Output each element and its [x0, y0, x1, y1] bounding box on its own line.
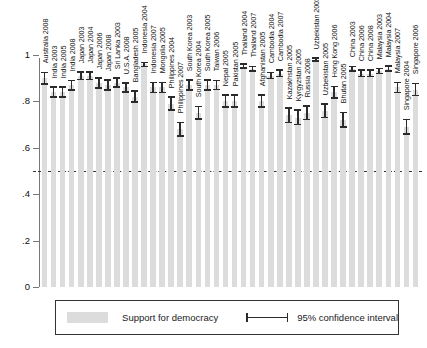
- error-bar-cap-upper: [267, 72, 274, 74]
- error-bar-cap-lower: [159, 92, 166, 94]
- error-bar-cap-upper: [331, 86, 338, 88]
- bar: [123, 87, 129, 287]
- error-bar-cap-lower: [412, 95, 419, 97]
- error-bar-cap-lower: [376, 73, 383, 75]
- error-bar-cap-upper: [349, 66, 356, 68]
- bar-group: Japan 2004: [85, 55, 94, 287]
- category-label: Malaysia 2004: [385, 12, 392, 57]
- bar-group: Indonesia 2004: [140, 55, 149, 287]
- legend-label-confidence-interval: 95% confidence interval: [297, 312, 398, 323]
- error-bar-cap-lower: [312, 60, 319, 62]
- error-bar-cap-lower: [385, 70, 392, 72]
- bar: [331, 92, 337, 287]
- category-label: South Korea 2003: [186, 15, 193, 71]
- error-bar-cap-upper: [385, 65, 392, 67]
- category-label: Russia 2008: [304, 58, 311, 97]
- y-axis-tick-label: .2: [2, 236, 30, 246]
- error-bar-cap-lower: [177, 135, 184, 137]
- legend-errorbar-icon: [246, 313, 288, 322]
- category-label: Japan 2003: [78, 26, 85, 63]
- bar: [132, 97, 138, 287]
- legend-swatch-support: [67, 312, 108, 323]
- category-label: Thailand 2007: [249, 13, 256, 57]
- error-bar: [415, 83, 417, 95]
- bar-group: Uzbekistan 2005: [320, 55, 329, 287]
- bar-group: Japan 2006: [94, 55, 103, 287]
- error-bar-cap-lower: [340, 126, 347, 128]
- error-bar-cap-lower: [222, 106, 229, 108]
- bar-group: Singapore 2006: [411, 55, 420, 287]
- bar-group: Australia 2008: [40, 55, 49, 287]
- plot-area: Australia 2008India 2003India 2005India …: [40, 55, 420, 287]
- category-label: India 2005: [59, 45, 66, 78]
- bar-group: Thailand 2007: [248, 55, 257, 287]
- category-label: Nepal 2005: [222, 50, 229, 86]
- bar: [349, 69, 355, 287]
- error-bar-cap-upper: [131, 90, 138, 92]
- y-axis-tick-mark: [33, 194, 39, 195]
- bar-group: Nepal 2005: [221, 55, 230, 287]
- bar: [150, 87, 156, 287]
- bar: [141, 64, 147, 287]
- error-bar-cap-upper: [86, 71, 93, 73]
- error-bar-cap-upper: [249, 66, 256, 68]
- bar: [268, 76, 274, 287]
- error-bar-cap-upper: [122, 82, 129, 84]
- bar: [376, 71, 382, 287]
- error-bar-cap-lower: [68, 89, 75, 91]
- error-bar: [234, 95, 236, 107]
- error-bar-cap-upper: [376, 68, 383, 70]
- bar-group: Cambodia 2007: [275, 55, 284, 287]
- bar: [340, 120, 346, 287]
- y-axis-tick-label: 1: [2, 50, 30, 60]
- category-label: Kyrgyzstan 2005: [295, 49, 302, 101]
- category-label: Japan 2006: [96, 33, 103, 70]
- error-bar-cap-upper: [240, 63, 247, 65]
- bar: [87, 76, 93, 287]
- error-bar-cap-lower: [50, 96, 57, 98]
- error-bar-cap-lower: [331, 97, 338, 99]
- category-label: Singapore 2006: [412, 25, 419, 74]
- bar-group: Singapore 2004: [402, 55, 411, 287]
- error-bar-cap-upper: [159, 82, 166, 84]
- error-bar: [342, 113, 344, 127]
- error-bar: [306, 106, 308, 119]
- category-label: Afghanistan 2005: [258, 32, 265, 86]
- error-bar: [288, 108, 290, 122]
- category-label: Bangladesh 2005: [132, 28, 139, 82]
- chart-legend: Support for democracy 95% confidence int…: [55, 300, 399, 335]
- bar-group: Bangladesh 2005: [130, 55, 139, 287]
- y-axis-tick-label: .6: [2, 143, 30, 153]
- error-bar-cap-upper: [394, 82, 401, 84]
- error-bar-cap-lower: [276, 76, 283, 78]
- bar: [78, 76, 84, 287]
- category-label: Cambodia 2004: [268, 14, 275, 63]
- bar-group: Cambodia 2004: [266, 55, 275, 287]
- bar-group: China 2003: [348, 55, 357, 287]
- error-bar-cap-lower: [321, 117, 328, 119]
- bar: [105, 85, 111, 287]
- error-bar-cap-upper: [231, 94, 238, 96]
- bar-group: South Korea 2005: [203, 55, 212, 287]
- category-label: India 2008: [68, 39, 75, 72]
- error-bar-cap-upper: [258, 94, 265, 96]
- error-bar-cap-upper: [321, 103, 328, 105]
- y-axis-tick-mark: [33, 101, 39, 102]
- bar-group: Pakistan 2005: [230, 55, 239, 287]
- category-label: Hong Kong 2006: [331, 25, 338, 78]
- category-label: Singapore 2004: [403, 61, 410, 110]
- bar: [51, 92, 57, 287]
- error-bar-cap-upper: [50, 86, 57, 88]
- bar: [177, 129, 183, 287]
- bar-group: India 2005: [58, 55, 67, 287]
- error-bar-cap-lower: [95, 87, 102, 89]
- legend-label-support: Support for democracy: [122, 312, 218, 323]
- error-bar-cap-upper: [59, 86, 66, 88]
- category-label: Indonesia 2004: [141, 6, 148, 54]
- bar-group: South Korea 2003: [185, 55, 194, 287]
- error-bar-cap-lower: [195, 118, 202, 120]
- bar: [286, 115, 292, 287]
- category-label: China 2003: [349, 22, 356, 58]
- category-label: U.S.A. 2008: [123, 36, 130, 74]
- bar: [168, 104, 174, 287]
